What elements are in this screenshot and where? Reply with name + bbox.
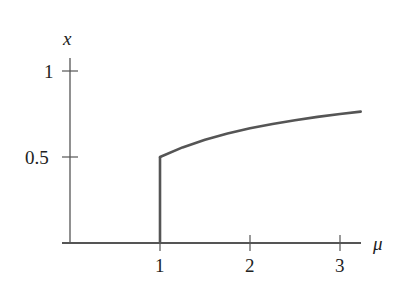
x-tick-label-2: 2 xyxy=(245,255,255,276)
x-tick-label-3: 3 xyxy=(335,255,345,276)
y-axis-label: x xyxy=(62,28,72,49)
x-axis-label: μ xyxy=(372,233,383,254)
x-tick-label-1: 1 xyxy=(155,255,165,276)
y-tick-label-1: 1 xyxy=(44,61,54,82)
chart-canvas: x 1 0.5 1 2 3 μ xyxy=(0,0,407,289)
series-curve xyxy=(160,112,361,157)
y-tick-label-0.5: 0.5 xyxy=(25,147,49,168)
